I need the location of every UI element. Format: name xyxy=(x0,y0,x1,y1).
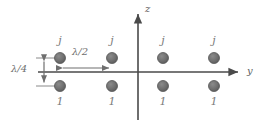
element-label-bottom-3: 1 xyxy=(157,96,169,107)
element-label-top-1: j xyxy=(54,35,66,46)
y-axis-label: y xyxy=(247,66,253,76)
element-label-top-3: j xyxy=(157,35,169,46)
array-element-dot xyxy=(158,53,169,64)
array-element-dot xyxy=(107,53,118,64)
array-elements-bottom-row xyxy=(55,81,220,92)
element-label-bottom-4: 1 xyxy=(208,96,220,107)
figure-canvas xyxy=(0,0,269,126)
array-element-dot xyxy=(55,53,66,64)
element-label-top-4: j xyxy=(208,35,220,46)
half-wavelength-label: λ/2 xyxy=(72,47,88,57)
element-label-top-2: j xyxy=(106,35,118,46)
z-axis-label: z xyxy=(145,4,150,14)
array-geometry-figure: y z j j j j 1 1 1 1 λ/4 λ/2 xyxy=(0,0,269,126)
element-label-bottom-2: 1 xyxy=(106,96,118,107)
array-element-dot xyxy=(107,81,118,92)
array-element-dot xyxy=(209,81,220,92)
quarter-wavelength-label: λ/4 xyxy=(11,64,27,74)
array-element-dot xyxy=(158,81,169,92)
element-label-bottom-1: 1 xyxy=(54,96,66,107)
array-element-dot xyxy=(209,53,220,64)
array-element-dot xyxy=(55,81,66,92)
